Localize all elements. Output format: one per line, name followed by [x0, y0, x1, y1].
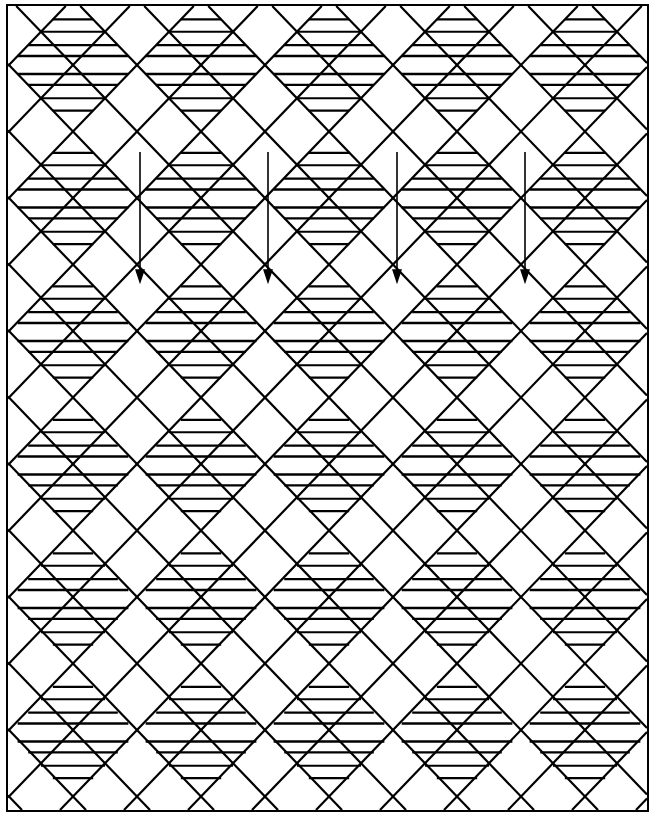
- diagram-border: [6, 4, 649, 812]
- diagram-page: [0, 0, 655, 818]
